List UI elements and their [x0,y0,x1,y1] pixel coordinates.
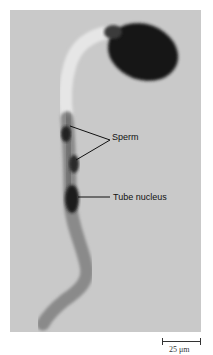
sperm-leader-1 [70,126,110,140]
tube-nucleus [65,185,79,213]
sperm-cell-2 [69,155,79,173]
scale-bar-label: 25 μm [169,345,190,354]
pollen-image [10,10,201,332]
sperm-leader-2 [76,140,110,160]
sperm-label: Sperm [112,132,139,142]
micrograph: Sperm Tube nucleus [10,10,201,332]
scale-bar-tick-left [162,338,163,345]
sperm-cell-1 [61,126,71,142]
scale-bar-line [162,341,200,342]
scale-bar-tick-right [200,338,201,345]
scale-bar: 25 μm [162,337,202,355]
tube-nucleus-label: Tube nucleus [113,192,167,202]
